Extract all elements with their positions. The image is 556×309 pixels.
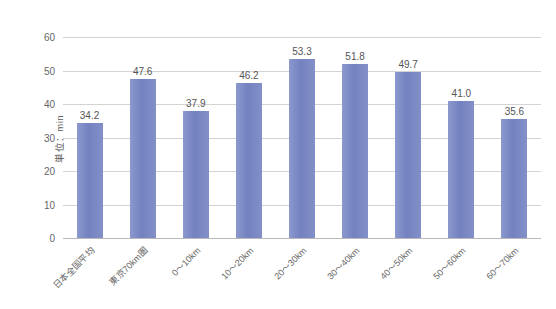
bar-value-label: 35.6 xyxy=(505,106,524,117)
x-axis-labels: 日本全国平均東京70km圏0～10km10～20km20～30km30～40km… xyxy=(63,240,541,309)
x-label-slot: 10～20km xyxy=(222,240,275,309)
bar-group: 49.7 xyxy=(382,37,435,238)
bar-value-label: 37.9 xyxy=(186,98,205,109)
bar-group: 51.8 xyxy=(329,37,382,238)
x-label-slot: 日本全国平均 xyxy=(63,240,116,309)
bar-group: 37.9 xyxy=(169,37,222,238)
y-tick-label: 0 xyxy=(49,233,55,244)
bar xyxy=(448,101,474,238)
x-tick-label-text: 60～70km xyxy=(483,244,521,282)
x-tick-label-text: 50～60km xyxy=(430,244,468,282)
bar-value-label: 51.8 xyxy=(345,51,364,62)
x-tick-label-text: 0～10km xyxy=(168,244,203,279)
bar xyxy=(342,64,368,238)
y-tick-label: 10 xyxy=(44,199,55,210)
bar-group: 35.6 xyxy=(488,37,541,238)
x-tick-label-text: 30～40km xyxy=(324,244,362,282)
y-tick-label: 20 xyxy=(44,166,55,177)
y-tick-label: 50 xyxy=(44,65,55,76)
bar-group: 34.2 xyxy=(63,37,116,238)
bar-value-label: 46.2 xyxy=(239,70,258,81)
bar-chart-figure: 単位：min 0102030405060 34.247.637.946.253.… xyxy=(0,0,556,309)
bar xyxy=(236,83,262,238)
x-label-slot: 40～50km xyxy=(382,240,435,309)
x-tick-label-text: 20～30km xyxy=(271,244,309,282)
x-label-slot: 50～60km xyxy=(435,240,488,309)
bar-value-label: 53.3 xyxy=(292,46,311,57)
x-label-slot: 60～70km xyxy=(488,240,541,309)
bar-value-label: 47.6 xyxy=(133,66,152,77)
x-label-slot: 東京70km圏 xyxy=(116,240,169,309)
bar-value-label: 34.2 xyxy=(80,110,99,121)
x-label-slot: 0～10km xyxy=(169,240,222,309)
x-label-slot: 30～40km xyxy=(329,240,382,309)
x-tick-label-text: 日本全国平均 xyxy=(49,244,96,291)
bar-value-label: 49.7 xyxy=(398,59,417,70)
y-tick-label: 40 xyxy=(44,99,55,110)
bar xyxy=(77,123,103,238)
bars-layer: 34.247.637.946.253.351.849.741.035.6 xyxy=(63,37,541,238)
x-label-slot: 20～30km xyxy=(275,240,328,309)
plot-area: 0102030405060 34.247.637.946.253.351.849… xyxy=(63,37,541,238)
bar-value-label: 41.0 xyxy=(452,88,471,99)
x-tick-label-text: 40～50km xyxy=(377,244,415,282)
y-tick-label: 30 xyxy=(44,132,55,143)
bar-group: 53.3 xyxy=(275,37,328,238)
bar xyxy=(501,119,527,238)
bar xyxy=(289,59,315,238)
x-tick-label-text: 10～20km xyxy=(218,244,256,282)
y-tick-label: 60 xyxy=(44,32,55,43)
bar xyxy=(395,72,421,238)
bar-group: 41.0 xyxy=(435,37,488,238)
bar-group: 46.2 xyxy=(222,37,275,238)
bar xyxy=(183,111,209,238)
